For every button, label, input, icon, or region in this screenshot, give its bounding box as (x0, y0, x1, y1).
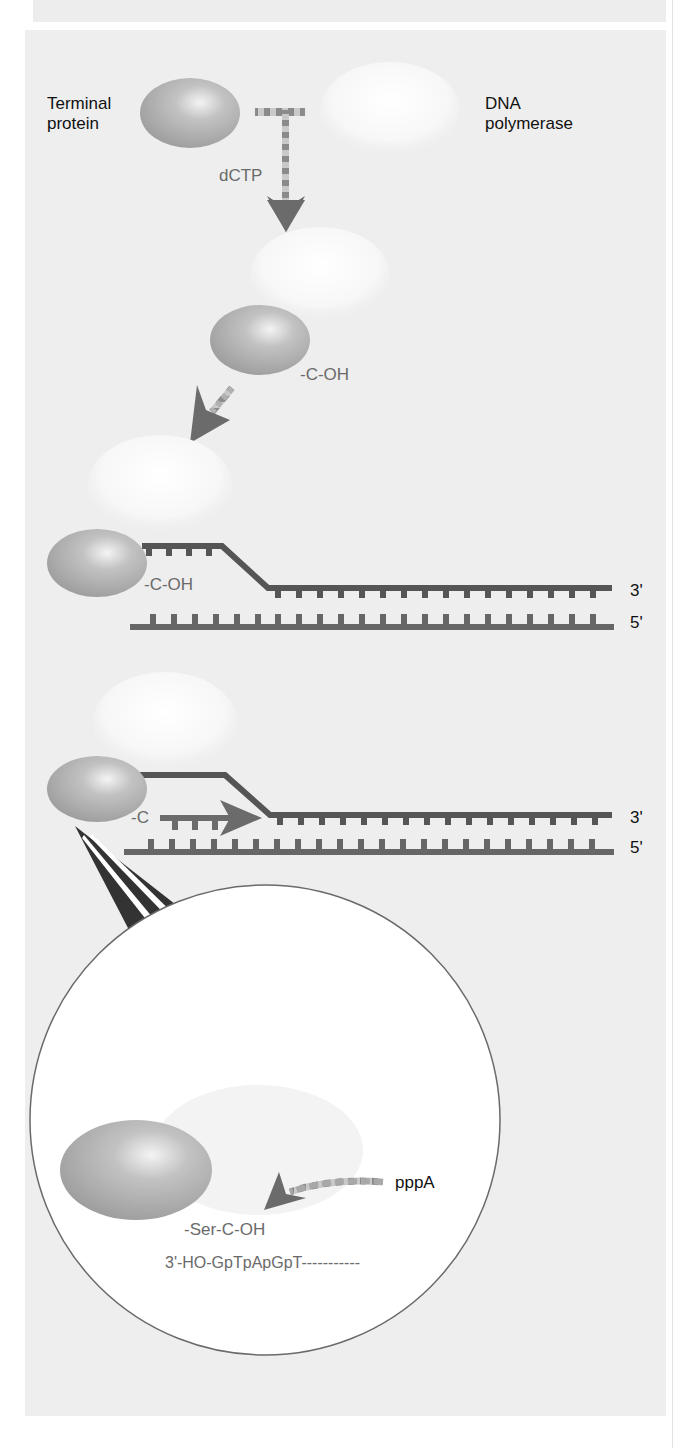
dna-polymerase-shape (320, 62, 460, 158)
dna-bottom-strand (124, 849, 614, 855)
stage2 (190, 227, 390, 443)
c-oh-label: -C-OH (300, 365, 349, 385)
terminal-protein-shape (47, 529, 147, 597)
terminal-protein-shape (60, 1120, 212, 1220)
three-prime-label: 3' (630, 581, 643, 601)
dctp-bar-horizontal (255, 108, 305, 116)
three-prime-label: 3' (630, 808, 643, 828)
sequence-label: 3'-HO-GpTpApGpT----------- (165, 1253, 360, 1273)
c-label: -C (131, 808, 149, 828)
pppa-label: pppA (395, 1173, 435, 1193)
stage3 (47, 435, 614, 630)
dna-top-strand (142, 546, 612, 588)
ser-c-oh-label: -Ser-C-OH (184, 1220, 265, 1240)
terminal-protein-label: Terminal protein (47, 94, 111, 134)
five-prime-label: 5' (630, 838, 643, 858)
dna-polymerase-shape (93, 672, 237, 772)
terminal-protein-shape (140, 78, 240, 148)
replication-diagram (0, 0, 687, 1448)
dna-top-strand (140, 775, 612, 815)
inset-detail (30, 885, 500, 1355)
dctp-bar-vertical (282, 110, 289, 210)
bottom-strand-teeth (150, 614, 596, 624)
bottom-strand-teeth (148, 839, 595, 849)
new-strand (160, 815, 230, 821)
c-oh-label: -C-OH (144, 575, 193, 595)
dna-polymerase-shape (88, 435, 232, 535)
dna-bottom-strand (130, 624, 614, 630)
terminal-protein-shape (210, 305, 310, 375)
dctp-label: dCTP (219, 166, 262, 186)
dna-polymerase-label: DNA polymerase (485, 94, 573, 134)
stage1 (140, 62, 460, 232)
five-prime-label: 5' (630, 613, 643, 633)
